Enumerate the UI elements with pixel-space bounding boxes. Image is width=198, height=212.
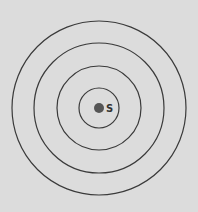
source-label: S xyxy=(106,103,113,114)
point-source xyxy=(94,103,104,113)
wavefront-diagram: S xyxy=(0,0,198,212)
